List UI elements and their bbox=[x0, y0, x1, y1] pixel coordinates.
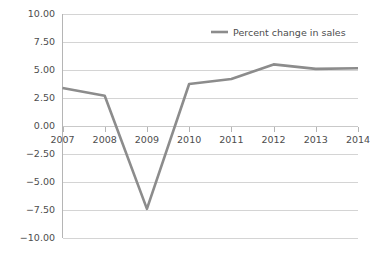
x-axis-tick-labels: 20072008200920102011201220132014 bbox=[50, 134, 370, 145]
gridlines bbox=[63, 15, 359, 239]
x-axis-tick-label: 2012 bbox=[261, 134, 285, 145]
y-axis-tick-label: −2.50 bbox=[26, 148, 55, 159]
x-axis-tick-label: 2007 bbox=[50, 134, 74, 145]
y-axis-tick-label: 5.00 bbox=[34, 64, 55, 75]
y-axis-tick-label: −7.50 bbox=[26, 204, 55, 215]
x-axis-tickmarks bbox=[64, 127, 359, 132]
chart-canvas: 10.007.505.002.500.00−2.50−5.00−7.50−10.… bbox=[0, 0, 381, 263]
y-axis-tick-label: −5.00 bbox=[26, 176, 55, 187]
y-axis-tick-label: 7.50 bbox=[34, 36, 55, 47]
x-axis-tick-label: 2011 bbox=[219, 134, 243, 145]
legend-label: Percent change in sales bbox=[233, 27, 346, 38]
x-axis-tick-label: 2014 bbox=[346, 134, 370, 145]
line-chart: 10.007.505.002.500.00−2.50−5.00−7.50−10.… bbox=[0, 0, 381, 263]
y-axis-tick-label: 10.00 bbox=[28, 8, 55, 19]
x-axis-tick-label: 2009 bbox=[135, 134, 159, 145]
x-axis-tick-label: 2010 bbox=[177, 134, 201, 145]
x-axis-tick-label: 2013 bbox=[304, 134, 328, 145]
x-axis-tick-label: 2008 bbox=[93, 134, 117, 145]
legend: Percent change in sales bbox=[211, 27, 346, 38]
y-axis-tick-labels: 10.007.505.002.500.00−2.50−5.00−7.50−10.… bbox=[20, 8, 55, 243]
y-axis-tick-label: −10.00 bbox=[20, 232, 55, 243]
y-axis-tick-label: 2.50 bbox=[34, 92, 55, 103]
y-axis-tick-label: 0.00 bbox=[34, 120, 55, 131]
